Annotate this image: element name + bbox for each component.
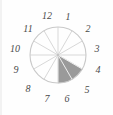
hour-label-12: 12	[42, 11, 52, 21]
clock-center-hub	[57, 54, 59, 56]
hour-label-6: 6	[65, 94, 70, 104]
hour-label-9: 9	[14, 65, 19, 75]
clock-diagram-figure: 121234567891011	[0, 0, 113, 115]
hour-label-1: 1	[66, 12, 71, 22]
shaded-sector	[58, 55, 82, 83]
clock-face-graphic	[0, 0, 113, 115]
hour-label-10: 10	[10, 44, 20, 54]
hour-label-3: 3	[95, 44, 100, 54]
hour-label-5: 5	[85, 85, 90, 95]
hour-label-4: 4	[96, 65, 101, 75]
shaded-sector-group	[58, 55, 82, 83]
hour-label-8: 8	[26, 84, 31, 94]
hour-label-11: 11	[23, 24, 32, 34]
hour-label-7: 7	[45, 94, 50, 104]
hour-label-2: 2	[86, 24, 91, 34]
